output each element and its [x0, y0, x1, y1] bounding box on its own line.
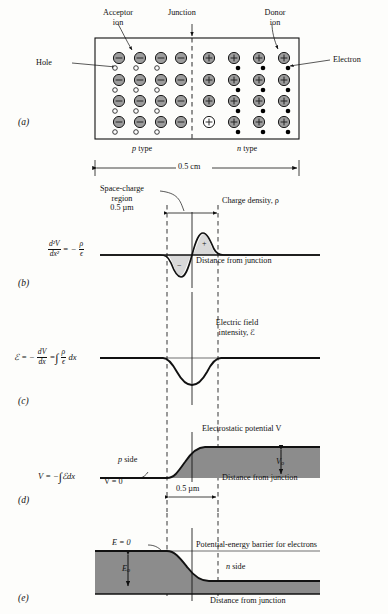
- hole: [113, 109, 118, 114]
- acceptor-ion: [134, 95, 145, 106]
- donor-ion: [228, 116, 239, 127]
- n-type-label: n type: [237, 144, 257, 154]
- donor-ion: [203, 116, 214, 127]
- donor-ion: [278, 74, 289, 85]
- overall-width-label: 0.5 cm: [178, 162, 200, 172]
- hole: [113, 130, 118, 135]
- charge-density-label: Charge density, ρ: [222, 196, 279, 206]
- acceptor-ion: [113, 95, 124, 106]
- hole: [134, 88, 139, 93]
- panel-label-b: (b): [18, 278, 29, 288]
- donor-ion: [278, 52, 289, 63]
- panel-label-a: (a): [18, 117, 29, 127]
- electrostatic-potential-label: Electrostatic potential V: [202, 424, 281, 434]
- electron: [286, 109, 291, 114]
- electron: [261, 130, 266, 135]
- acceptor-ion: [155, 52, 166, 63]
- panel-a-leader-lines: [72, 24, 330, 67]
- acceptor-ion: [155, 74, 166, 85]
- equation-efield: ℰ = − dVdx =∫ ρϵ dx: [14, 348, 76, 366]
- distance-axis-label-e: Distance from junction: [210, 596, 286, 606]
- e0-label: Eo: [122, 564, 130, 574]
- electron-label: Electron: [333, 55, 361, 65]
- hole: [134, 66, 139, 71]
- panel-e-plot: [95, 513, 320, 601]
- hole-label: Hole: [36, 58, 52, 68]
- acceptor-ion: [175, 52, 186, 63]
- distance-axis-label-b: Distance from junction: [196, 256, 272, 266]
- equation-potential: V = −∫ℰdx: [38, 470, 75, 485]
- donor-ion-lattice: [203, 52, 289, 127]
- acceptor-ion: [113, 116, 124, 127]
- figure-canvas: [0, 0, 388, 614]
- acceptor-ion: [155, 116, 166, 127]
- donor-ion: [278, 116, 289, 127]
- donor-ion: [253, 116, 264, 127]
- positive-lobe-sign: +: [202, 239, 207, 248]
- electric-field-curve: [100, 358, 320, 385]
- donor-ion: [203, 52, 214, 63]
- donor-ion: [228, 52, 239, 63]
- hole: [155, 88, 160, 93]
- electron: [261, 88, 266, 93]
- panel-b-plot: [100, 205, 320, 288]
- acceptor-ion: [175, 74, 186, 85]
- hole: [155, 109, 160, 114]
- electron: [236, 109, 241, 114]
- acceptor-ion: [175, 116, 186, 127]
- panel-a-crystal-box: [95, 38, 299, 139]
- electric-field-label: Electric fieldintensity, ℰ: [196, 318, 278, 337]
- electron: [236, 130, 241, 135]
- acceptor-ion: [155, 95, 166, 106]
- electron: [286, 88, 291, 93]
- hole: [113, 66, 118, 71]
- hole: [155, 130, 160, 135]
- panel-c-plot: [100, 292, 320, 418]
- donor-ion: [278, 95, 289, 106]
- electron: [261, 66, 266, 71]
- space-charge-region-label: Space-charge region 0.5 µm: [82, 184, 162, 213]
- acceptor-ion: [134, 74, 145, 85]
- p-side-label: p side: [118, 455, 137, 465]
- panel-label-d: (d): [18, 495, 29, 505]
- electron: [286, 130, 291, 135]
- acceptor-ion: [113, 74, 124, 85]
- acceptor-ion-label: Acceptorion: [80, 8, 156, 27]
- donor-ion: [253, 95, 264, 106]
- n-side-label: n side: [226, 562, 245, 572]
- junction-label: Junction: [168, 8, 196, 18]
- electron: [261, 109, 266, 114]
- donor-ion: [228, 74, 239, 85]
- equation-poisson: d²Vdx² = − ρϵ: [48, 240, 84, 258]
- panel-label-e: (e): [18, 593, 29, 603]
- acceptor-ion-lattice: [113, 52, 186, 127]
- v-zero-label: V = 0: [104, 477, 123, 487]
- acceptor-ion: [134, 116, 145, 127]
- depletion-width-label-d: 0.5 µm: [176, 484, 199, 494]
- electron: [236, 88, 241, 93]
- panel-label-c: (c): [18, 396, 29, 406]
- barrier-label: Potential-energy barrier for electrons: [196, 540, 317, 550]
- donor-ion: [228, 95, 239, 106]
- donor-ion: [203, 74, 214, 85]
- negative-lobe-sign: −: [177, 261, 182, 270]
- donor-ion: [253, 74, 264, 85]
- space-charge-leader: [160, 191, 184, 211]
- p-type-label: p type: [132, 144, 152, 154]
- hole: [134, 130, 139, 135]
- pn-junction-figure: (a) (b) (c) (d) (e) Acceptorion Junction…: [0, 0, 388, 614]
- hole: [113, 88, 118, 93]
- donor-ion-label: Donorion: [245, 8, 305, 27]
- panel-d-plot: [100, 420, 320, 512]
- donor-ion: [203, 95, 214, 106]
- hole: [155, 66, 160, 71]
- electron: [236, 66, 241, 71]
- distance-axis-label-d: Distance from junction: [222, 473, 298, 483]
- acceptor-ion: [113, 52, 124, 63]
- acceptor-ion: [134, 52, 145, 63]
- hole: [134, 109, 139, 114]
- v0-label: Vo: [276, 457, 284, 467]
- donor-ion: [253, 52, 264, 63]
- acceptor-ion: [175, 95, 186, 106]
- e-zero-label: E = 0: [112, 538, 131, 548]
